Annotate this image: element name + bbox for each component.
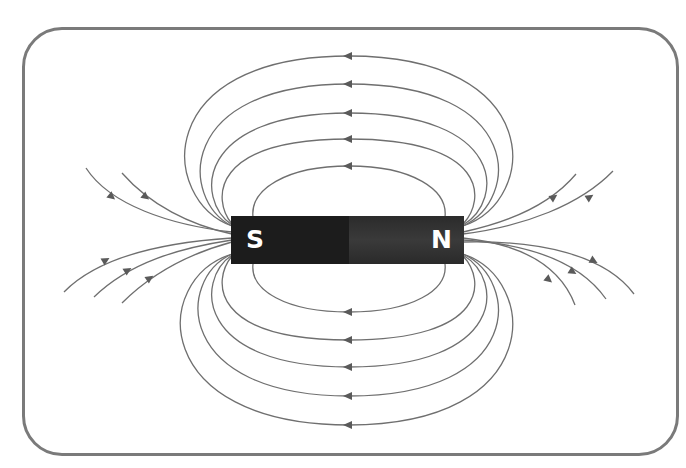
arrow-icon [543, 274, 554, 285]
arrow-left-icon [343, 421, 352, 429]
arrow-left-icon [343, 52, 352, 60]
left-open-lines [64, 168, 232, 303]
south-pole-label: S [246, 216, 264, 264]
arrow-left-icon [343, 363, 352, 371]
diagram-canvas: S N [0, 0, 686, 468]
arrow-left-icon [343, 109, 352, 117]
north-pole-label: N [431, 216, 452, 264]
right-open-lines [463, 171, 634, 305]
left-arrows [101, 191, 156, 283]
arrow-left-icon [343, 336, 352, 344]
bottom-arrows [343, 308, 352, 429]
arrow-left-icon [343, 308, 352, 316]
bar-magnet [231, 216, 464, 264]
arrow-left-icon [343, 162, 352, 170]
arrow-icon [548, 191, 559, 202]
arrow-left-icon [343, 80, 352, 88]
top-arrows [343, 52, 352, 170]
arrow-left-icon [343, 135, 352, 143]
arrow-left-icon [343, 392, 352, 400]
